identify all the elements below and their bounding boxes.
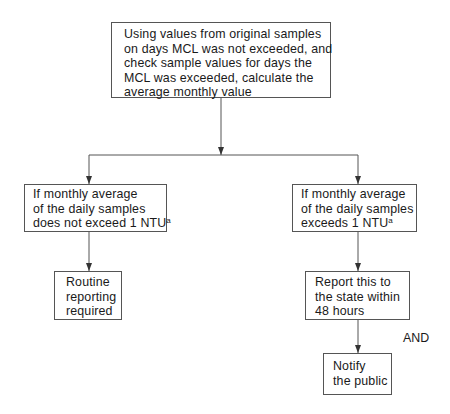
exceed-line-1: If monthly average xyxy=(301,187,416,202)
start-line-5: average monthly value xyxy=(124,85,330,100)
notify-line-2: the public xyxy=(333,374,391,389)
footnote-marker: a xyxy=(388,216,393,225)
routine-line-2: reporting xyxy=(66,290,121,305)
arrowhead-icon xyxy=(355,176,361,184)
footnote-marker: a xyxy=(166,216,171,225)
routine-line-1: Routine xyxy=(66,275,121,290)
not-exceed-line-1: If monthly average xyxy=(33,187,166,202)
exceed-line-3-text: exceeds 1 NTU xyxy=(301,216,388,230)
notify-line-1: Notify xyxy=(333,359,391,374)
start-line-1: Using values from original samples xyxy=(124,27,330,42)
exceed-line-2: of the daily samples xyxy=(301,202,416,217)
exceed-line-3: exceeds 1 NTUa xyxy=(301,216,416,231)
start-line-2: on days MCL was not exceeded, and xyxy=(124,42,330,57)
report-state-node: Report this to the state within 48 hours xyxy=(305,271,410,320)
arrowhead-icon xyxy=(355,345,361,353)
start-line-3: check sample values for days the xyxy=(124,56,330,71)
report-line-3: 48 hours xyxy=(315,304,409,319)
arrowhead-icon xyxy=(355,263,361,271)
not-exceed-line-3: does not exceed 1 NTUa xyxy=(33,216,166,231)
not-exceed-line-3-text: does not exceed 1 NTU xyxy=(33,216,166,230)
and-label: AND xyxy=(403,331,429,345)
report-line-1: Report this to xyxy=(315,275,409,290)
routine-node: Routine reporting required xyxy=(54,271,122,320)
arrowhead-icon xyxy=(86,263,92,271)
report-line-2: the state within xyxy=(315,290,409,305)
start-line-4: MCL was exceeded, calculate the xyxy=(124,71,330,86)
not-exceed-line-2: of the daily samples xyxy=(33,202,166,217)
not-exceed-node: If monthly average of the daily samples … xyxy=(24,184,167,232)
exceed-node: If monthly average of the daily samples … xyxy=(292,184,417,232)
routine-line-3: required xyxy=(66,304,121,319)
arrowhead-icon xyxy=(86,176,92,184)
arrowhead-icon xyxy=(218,147,224,155)
notify-node: Notify the public xyxy=(323,353,392,395)
start-node: Using values from original samples on da… xyxy=(111,22,331,98)
